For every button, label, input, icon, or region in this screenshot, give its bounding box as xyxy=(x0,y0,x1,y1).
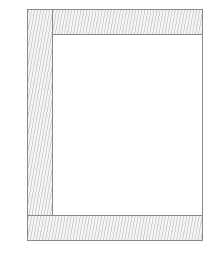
top-band-region xyxy=(53,10,202,35)
bottom-band-region xyxy=(28,215,202,240)
layout-frame xyxy=(27,9,203,241)
content-area-region xyxy=(54,36,202,215)
left-column-region xyxy=(28,10,53,215)
